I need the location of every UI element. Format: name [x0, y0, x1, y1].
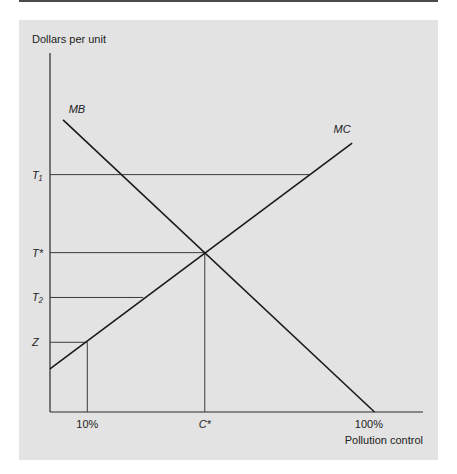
x-axis-label: Pollution control	[345, 434, 423, 446]
y-tick-label: Z	[31, 336, 40, 348]
curve-label-mb: MB	[69, 103, 86, 115]
y-tick-label: T*	[32, 247, 44, 259]
x-tick-label: C*	[199, 418, 212, 430]
curve-label-mc: MC	[333, 123, 350, 135]
chart-svg: Dollars per unit Pollution control MBMC …	[0, 0, 457, 474]
y-axis-label: Dollars per unit	[32, 33, 106, 45]
x-tick-label: 100%	[355, 418, 383, 430]
curve-mc	[50, 143, 352, 369]
x-tick-label: 10%	[76, 418, 98, 430]
y-tick-label: T₁	[32, 169, 43, 181]
curve-mb	[63, 120, 374, 412]
y-tick-label: T₂	[32, 291, 44, 303]
